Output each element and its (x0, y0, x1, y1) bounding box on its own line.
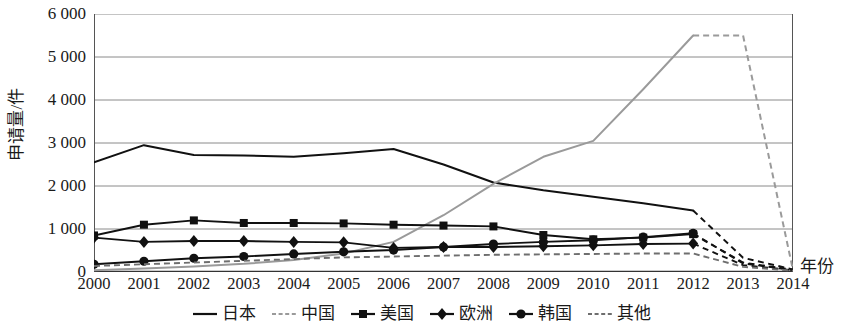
marker-circle (339, 247, 348, 256)
x-axis-tick-label: 2005 (320, 276, 368, 293)
legend-item-6[interactable]: 其他 (587, 305, 651, 322)
legend-marker-circle (516, 309, 525, 318)
legend-label: 美国 (380, 305, 414, 322)
x-axis-tick-label: 2014 (769, 276, 817, 293)
marker-square (190, 216, 198, 224)
plot-svg (94, 14, 793, 272)
y-axis-tick-label: 3 000 (24, 134, 86, 151)
y-axis-title: 申请量/件 (2, 89, 27, 161)
marker-circle (239, 252, 248, 261)
marker-square (489, 222, 497, 230)
marker-circle (589, 236, 598, 245)
series-6 (94, 254, 793, 271)
legend-label: 中国 (301, 305, 335, 322)
series-line-projected (94, 254, 793, 271)
x-axis-tick-label: 2010 (569, 276, 617, 293)
marker-circle (389, 245, 398, 254)
marker-square (140, 221, 148, 229)
legend-swatch-circle-icon (508, 307, 534, 321)
line-chart: 申请量/件 6 0005 0004 0003 0002 0001 0000 20… (0, 0, 842, 331)
legend-swatch-none-icon (192, 307, 218, 321)
marker-circle (539, 237, 548, 246)
x-axis-tick-label: 2012 (669, 276, 717, 293)
legend-label: 欧洲 (459, 305, 493, 322)
x-axis-title: 年份 (800, 252, 834, 277)
legend-swatch-square-icon (350, 307, 376, 321)
legend-item-5[interactable]: 韩国 (508, 305, 572, 322)
legend-swatch-none-icon (271, 307, 297, 321)
marker-circle (189, 254, 198, 263)
series-line-observed (94, 145, 693, 210)
x-axis-tick-label: 2009 (519, 276, 567, 293)
marker-diamond (239, 235, 249, 247)
legend-marker-square (359, 310, 367, 318)
marker-square (440, 222, 448, 230)
legend-swatch-diamond-icon (429, 307, 455, 321)
marker-square (340, 219, 348, 227)
x-axis-tick-label: 2002 (170, 276, 218, 293)
legend-item-2[interactable]: 中国 (271, 305, 335, 322)
legend-label: 其他 (617, 305, 651, 322)
marker-circle (689, 229, 698, 238)
series-line-projected (693, 36, 793, 271)
x-axis-tick-label: 2013 (719, 276, 767, 293)
y-axis-tick-label: 4 000 (24, 91, 86, 108)
legend-item-3[interactable]: 美国 (350, 305, 414, 322)
x-axis-tick-label: 2001 (120, 276, 168, 293)
marker-diamond (688, 238, 698, 250)
x-axis-tick-label: 2011 (619, 276, 667, 293)
y-axis-tick-label: 5 000 (24, 48, 86, 65)
legend-marker-diamond (437, 308, 447, 320)
marker-circle (94, 260, 99, 269)
legend-swatch-none-icon (587, 307, 613, 321)
series-line-projected (693, 211, 793, 270)
marker-diamond (289, 236, 299, 248)
marker-circle (489, 239, 498, 248)
x-axis-tick-label: 2006 (370, 276, 418, 293)
y-axis-tick-label: 2 000 (24, 177, 86, 194)
marker-diamond (339, 236, 349, 248)
marker-circle (289, 249, 298, 258)
x-axis-tick-label: 2008 (469, 276, 517, 293)
chart-legend: 日本中国美国欧洲韩国其他 (0, 305, 842, 322)
y-axis-tick-label: 6 000 (24, 5, 86, 22)
marker-circle (439, 242, 448, 251)
marker-diamond (189, 235, 199, 247)
legend-label: 韩国 (538, 305, 572, 322)
legend-label: 日本 (222, 305, 256, 322)
legend-item-4[interactable]: 欧洲 (429, 305, 493, 322)
x-axis-tick-label: 2004 (270, 276, 318, 293)
marker-diamond (139, 236, 149, 248)
x-axis-tick-label: 2003 (220, 276, 268, 293)
x-axis-tick-label: 2007 (420, 276, 468, 293)
legend-item-1[interactable]: 日本 (192, 305, 256, 322)
marker-square (390, 221, 398, 229)
marker-circle (639, 233, 648, 242)
marker-square (240, 219, 248, 227)
marker-square (290, 219, 298, 227)
plot-area (94, 14, 793, 272)
y-axis-tick-label: 1 000 (24, 220, 86, 237)
x-axis-tick-label: 2000 (70, 276, 118, 293)
x-axis-tick-labels: 2000200120022003200420052006200720082009… (94, 276, 793, 300)
